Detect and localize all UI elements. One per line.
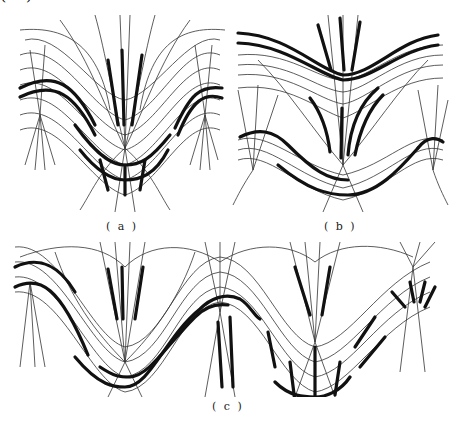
panel-c (0, 237, 453, 397)
field-diagram-c (0, 237, 453, 397)
caption-c: ( c ) (212, 400, 244, 413)
field-diagram-a: ( a ) (0, 0, 230, 215)
panel-b (228, 0, 453, 215)
caption-b: ( b ) (324, 220, 357, 233)
field-diagram-b (228, 0, 453, 215)
panel-a-caption: ( a ) (0, 0, 32, 4)
caption-a: ( a ) (106, 220, 138, 233)
panel-a: ( a ) (0, 0, 230, 215)
